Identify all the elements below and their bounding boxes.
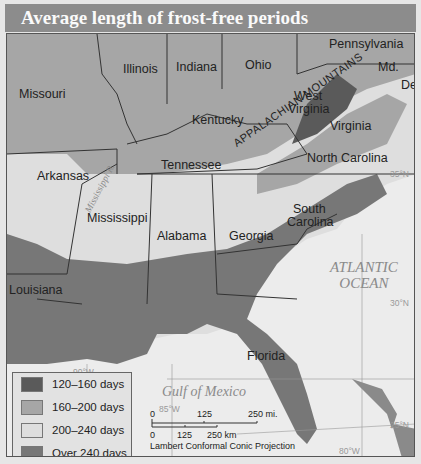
state-label-pennsylvania: Pennsylvania	[329, 38, 403, 51]
legend-label: 120–160 days	[52, 378, 124, 390]
state-label-tennessee: Tennessee	[161, 159, 221, 172]
legend-label: 160–200 days	[52, 401, 124, 413]
scale-mi-end: 250 mi.	[248, 409, 278, 419]
lat-25-label: 25°N	[390, 420, 409, 430]
projection-label: Lambert Conformal Conic Projection	[150, 441, 295, 451]
state-label-mississippi: Mississippi	[87, 212, 147, 225]
state-label-kentucky: Kentucky	[192, 114, 243, 127]
scale-mi-zero: 0	[150, 409, 155, 419]
legend: 120–160 days 160–200 days 200–240 days O…	[12, 372, 132, 457]
state-label-ohio: Ohio	[245, 59, 271, 72]
state-label-md: Md.	[378, 61, 399, 74]
lat-35-label: 35°N	[390, 169, 409, 179]
map-area: Missouri Illinois Indiana Ohio Pennsylva…	[6, 33, 415, 457]
state-label-alabama: Alabama	[157, 230, 206, 243]
lon-80-label: 80°W	[339, 446, 360, 456]
legend-item-over-240: Over 240 days	[21, 445, 127, 457]
scale-km-zero: 0	[150, 430, 155, 440]
atlantic-ocean-label: ATLANTIC OCEAN	[330, 259, 398, 291]
legend-swatch	[21, 400, 43, 415]
atlantic-label-line2: OCEAN	[330, 275, 398, 291]
gulf-of-mexico-label: Gulf of Mexico	[162, 384, 246, 400]
state-label-illinois: Illinois	[123, 63, 158, 76]
state-label-indiana: Indiana	[176, 61, 217, 74]
legend-swatch	[21, 377, 43, 392]
legend-label: Over 240 days	[52, 447, 127, 457]
state-label-south-carolina-2: Carolina	[287, 216, 334, 229]
state-label-missouri: Missouri	[19, 88, 66, 101]
scale-mi-mid: 125	[197, 409, 212, 419]
legend-item-200-240: 200–240 days	[21, 422, 124, 438]
map-title-bar: Average length of frost-free periods	[5, 4, 416, 32]
legend-label: 200–240 days	[52, 424, 124, 436]
state-label-florida: Florida	[247, 350, 285, 363]
state-label-del: Del.	[401, 79, 415, 92]
legend-item-120-160: 120–160 days	[21, 376, 124, 392]
lat-30-label: 30°N	[390, 298, 409, 308]
state-label-arkansas: Arkansas	[37, 170, 89, 183]
state-label-virginia: Virginia	[330, 120, 371, 133]
state-label-north-carolina: North Carolina	[307, 152, 388, 165]
state-label-louisiana: Louisiana	[9, 284, 63, 297]
legend-item-160-200: 160–200 days	[21, 399, 124, 415]
scale-km-mid: 125	[177, 430, 192, 440]
legend-swatch	[21, 446, 43, 458]
state-label-georgia: Georgia	[229, 230, 273, 243]
legend-swatch	[21, 423, 43, 438]
scale-km-end: 250 km	[207, 430, 237, 440]
map-title: Average length of frost-free periods	[21, 7, 308, 29]
atlantic-label-line1: ATLANTIC	[330, 259, 398, 275]
lon-85-label: 85°W	[159, 404, 180, 414]
